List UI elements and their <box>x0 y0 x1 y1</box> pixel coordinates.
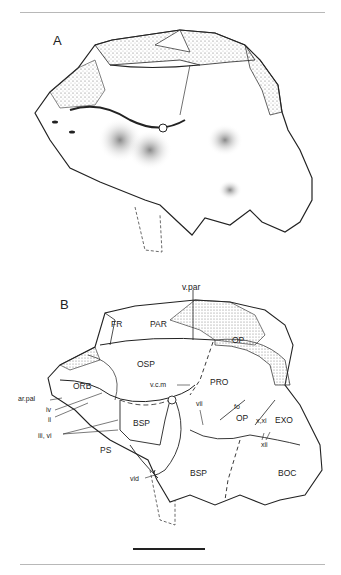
label-exo: EXO <box>275 416 293 425</box>
label-vcm: v.c.m <box>150 381 166 388</box>
label-x-xi: x,xi <box>256 417 267 424</box>
label-vii: vii <box>196 400 203 407</box>
label-bsp-upper: BSP <box>133 419 150 428</box>
label-fr: FR <box>111 320 122 329</box>
label-xii: xii <box>261 441 268 448</box>
label-bsp-lower: BSP <box>190 469 207 478</box>
label-pro: PRO <box>210 378 228 387</box>
label-par: PAR <box>150 320 167 329</box>
label-osp: OSP <box>137 360 155 369</box>
label-iii-vi: iii, vi <box>38 432 52 439</box>
label-op-mid: OP <box>236 414 248 423</box>
panel-b-illustration <box>0 0 341 575</box>
label-ii: ii <box>48 416 51 423</box>
scale-bar <box>133 548 205 550</box>
label-orb: ORB <box>73 382 91 391</box>
bottom-rule <box>20 564 325 565</box>
label-ps: PS <box>100 446 111 455</box>
label-iv: iv <box>46 406 51 413</box>
label-ar-pal: ar.pal <box>18 395 35 402</box>
label-v-par: v.par <box>182 283 200 292</box>
label-boc: BOC <box>278 469 296 478</box>
label-vid: vid <box>130 475 139 482</box>
label-fo: fo <box>234 403 240 410</box>
label-op-top: OP <box>232 336 244 345</box>
